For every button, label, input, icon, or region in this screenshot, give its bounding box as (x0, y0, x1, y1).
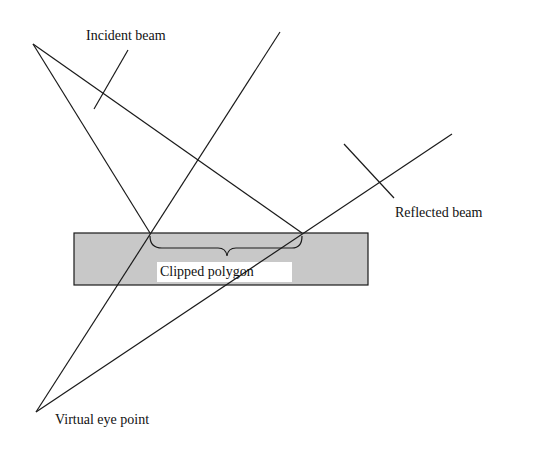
reflected-beam-label: Reflected beam (395, 206, 482, 220)
virtual-eye-point-label: Virtual eye point (55, 413, 149, 427)
reflection-diagram (0, 0, 540, 450)
clipped-polygon-label: Clipped polygon (160, 265, 254, 279)
eye-ray-left (36, 32, 280, 412)
incident-ray-right (33, 44, 302, 233)
incident-beam-label: Incident beam (86, 29, 166, 43)
incident-label-leader (94, 50, 128, 109)
incident-ray-left (33, 44, 150, 233)
